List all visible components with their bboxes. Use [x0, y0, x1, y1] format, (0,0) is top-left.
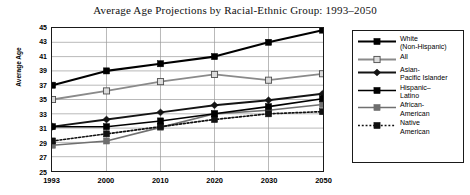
- chart-title: Average Age Projections by Racial-Ethnic…: [0, 4, 470, 16]
- y-axis-tick-label: 31: [17, 125, 47, 132]
- legend-label: African- American: [397, 101, 430, 118]
- legend-swatch-icon: [357, 67, 397, 78]
- legend-label: White (Non-Hispanic): [397, 35, 447, 52]
- legend-item[interactable]: African- American: [357, 101, 460, 118]
- y-axis-tick-label: 45: [17, 24, 47, 31]
- chart-root: Average Age Projections by Racial-Ethnic…: [0, 0, 470, 195]
- legend-label: All: [397, 53, 408, 61]
- y-axis-tick-label: 25: [17, 169, 47, 176]
- x-axis-tick-label: 2020: [190, 177, 240, 185]
- y-axis-title: Average Age: [5, 0, 12, 64]
- legend-swatch-icon: [357, 85, 397, 96]
- series-line: [52, 90, 323, 130]
- y-axis-tick-label: 33: [17, 111, 47, 118]
- y-axis-tick-label: 39: [17, 67, 47, 74]
- legend-item[interactable]: All: [357, 53, 460, 65]
- plot-svg: [52, 28, 323, 171]
- legend-swatch-icon: [357, 36, 397, 47]
- legend-item[interactable]: Native American: [357, 119, 460, 136]
- y-axis-tick-label: 29: [17, 140, 47, 147]
- y-axis-tick-label: 35: [17, 96, 47, 103]
- x-axis-tick-label: 2010: [135, 177, 185, 185]
- x-axis-tick-label: 2050: [299, 177, 349, 185]
- legend-label: Asian- Pacific Islander: [397, 66, 447, 83]
- legend-swatch-icon: [357, 120, 397, 131]
- legend-swatch-icon: [357, 54, 397, 65]
- x-axis-tick-label: 1993: [27, 177, 77, 185]
- y-axis-tick-label: 37: [17, 82, 47, 89]
- y-axis-tick-label: 27: [17, 154, 47, 161]
- legend-swatch-icon: [357, 102, 397, 113]
- legend-item[interactable]: Hispanic– Latino: [357, 84, 460, 101]
- y-axis-tick-label: 41: [17, 53, 47, 60]
- x-axis-tick-label: 2000: [81, 177, 131, 185]
- legend-item[interactable]: White (Non-Hispanic): [357, 35, 460, 52]
- y-axis-tick-label: 43: [17, 38, 47, 45]
- legend: White (Non-Hispanic)AllAsian- Pacific Is…: [352, 30, 464, 163]
- legend-label: Hispanic– Latino: [397, 84, 431, 101]
- x-axis-tick-label: 2030: [244, 177, 294, 185]
- plot-area: [51, 27, 324, 172]
- legend-item[interactable]: Asian- Pacific Islander: [357, 66, 460, 83]
- legend-label: Native American: [397, 119, 430, 136]
